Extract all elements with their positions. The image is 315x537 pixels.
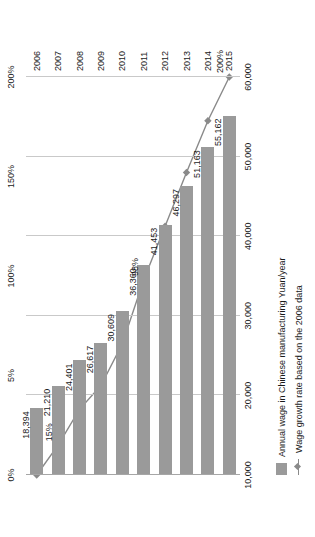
bar-value-label-2009: 26,617 <box>85 346 95 374</box>
legend-item-wage-bars: Annual wage in Chinese manufacturing Yua… <box>276 258 287 475</box>
category-label-2008: 2008 <box>75 51 85 71</box>
bar-2010 <box>116 311 129 474</box>
primary-tick-60000: 60,000 <box>243 63 253 91</box>
category-label-2011: 2011 <box>139 52 149 71</box>
plot-area: 18,39421,21024,40126,61730,60936,36041,4… <box>26 77 240 475</box>
category-label-2013: 2013 <box>182 51 192 71</box>
bar-2008 <box>73 360 86 474</box>
secondary-tick-200pct: 200% <box>6 65 16 88</box>
category-label-2010: 2010 <box>117 51 127 71</box>
bar-2009 <box>94 343 107 474</box>
bar-value-label-2015: 55,162 <box>213 119 223 147</box>
secondary-tick-5pct: 5% <box>6 369 16 382</box>
bar-2006 <box>30 408 43 474</box>
legend-item-growth-line: Wage growth rate based on the 2006 data <box>293 285 304 475</box>
category-label-2015: 2015 <box>224 51 234 71</box>
legend-label-growth: Wage growth rate based on the 2006 data <box>294 285 304 453</box>
line-point-label-2011: 98% <box>130 258 140 276</box>
gridline <box>26 76 240 77</box>
category-label-2012: 2012 <box>160 51 170 71</box>
bar-swatch-icon <box>276 463 287 475</box>
category-label-2009: 2009 <box>96 51 106 71</box>
bar-value-label-2007: 21,210 <box>42 389 52 417</box>
bar-value-label-2008: 24,401 <box>64 363 74 391</box>
bar-2014 <box>201 147 214 474</box>
chart-plot-wrapper: 0%5%100%150%200% 18,39421,21024,40126,61… <box>0 0 315 537</box>
bar-value-label-2014: 51,163 <box>192 150 202 178</box>
bar-value-label-2012: 41,453 <box>149 228 159 256</box>
legend-label-wage: Annual wage in Chinese manufacturing Yua… <box>277 258 287 457</box>
chart-rotated-canvas: 0%5%100%150%200% 18,39421,21024,40126,61… <box>0 0 315 537</box>
secondary-tick-100pct: 100% <box>6 264 16 287</box>
category-axis-labels: 2006200720082009201020112012201320142015 <box>26 35 240 75</box>
category-label-2014: 2014 <box>203 51 213 71</box>
bar-value-label-2010: 30,609 <box>106 314 116 342</box>
line-marker-2014 <box>204 117 211 124</box>
bar-value-label-2006: 18,394 <box>21 411 31 439</box>
bar-value-label-2013: 46,297 <box>171 189 181 217</box>
bar-2011 <box>137 265 150 474</box>
category-label-2006: 2006 <box>32 51 42 71</box>
primary-tick-20000: 20,000 <box>243 382 253 410</box>
secondary-tick-0pct: 0% <box>6 468 16 481</box>
primary-tick-10000: 10,000 <box>243 461 253 489</box>
line-diamond-swatch-icon <box>293 459 304 475</box>
bar-2013 <box>180 186 193 474</box>
category-label-2007: 2007 <box>53 51 63 71</box>
primary-tick-40000: 40,000 <box>243 222 253 250</box>
bar-2015 <box>223 116 236 474</box>
line-marker-2013 <box>183 169 190 176</box>
gridline <box>26 474 240 475</box>
chart-figure: 0%5%100%150%200% 18,39421,21024,40126,61… <box>0 0 315 537</box>
primary-tick-50000: 50,000 <box>243 143 253 171</box>
primary-tick-30000: 30,000 <box>243 302 253 330</box>
chart-legend: Annual wage in Chinese manufacturing Yua… <box>276 75 310 475</box>
bar-2012 <box>159 225 172 474</box>
line-point-label-2007: 15% <box>44 423 54 441</box>
secondary-tick-150pct: 150% <box>6 165 16 188</box>
